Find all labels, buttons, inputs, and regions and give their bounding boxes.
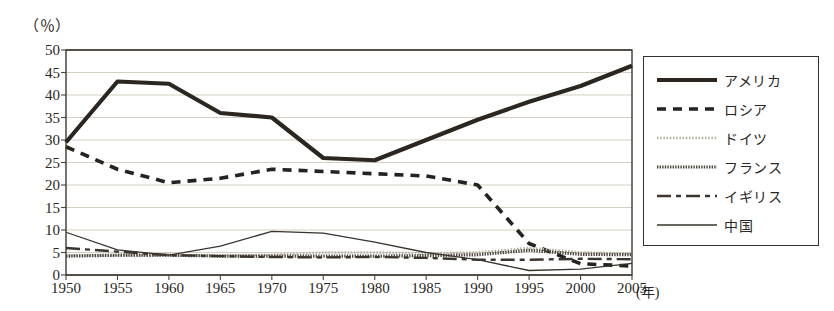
- dense-dotted-line-icon: [656, 160, 718, 174]
- legend-label: 中国: [724, 215, 753, 235]
- legend-item[interactable]: ドイツ: [644, 123, 818, 152]
- legend-item[interactable]: 中国: [644, 210, 818, 239]
- thin-solid-line-icon: [656, 218, 718, 232]
- legend-label: フランス: [724, 157, 782, 177]
- chart-legend: アメリカロシアドイツフランスイギリス中国: [643, 56, 819, 246]
- thick-solid-line-icon: [656, 73, 718, 87]
- legend-item[interactable]: イギリス: [644, 181, 818, 210]
- legend-label: ロシア: [724, 99, 768, 119]
- series-line-2: [66, 147, 632, 266]
- thick-dashed-line-icon: [656, 102, 718, 116]
- legend-label: イギリス: [724, 186, 782, 206]
- dash-dot-line-icon: [656, 189, 718, 203]
- legend-label: アメリカ: [724, 70, 781, 90]
- legend-item[interactable]: アメリカ: [644, 65, 818, 94]
- legend-item[interactable]: フランス: [644, 152, 818, 181]
- series-layer: [66, 66, 632, 271]
- light-dotted-line-icon: [656, 131, 718, 145]
- chart-container: （％） (年) 05101520253035404550 19501955196…: [0, 0, 834, 311]
- legend-item[interactable]: ロシア: [644, 94, 818, 123]
- legend-label: ドイツ: [724, 128, 768, 148]
- series-line-1: [66, 66, 632, 161]
